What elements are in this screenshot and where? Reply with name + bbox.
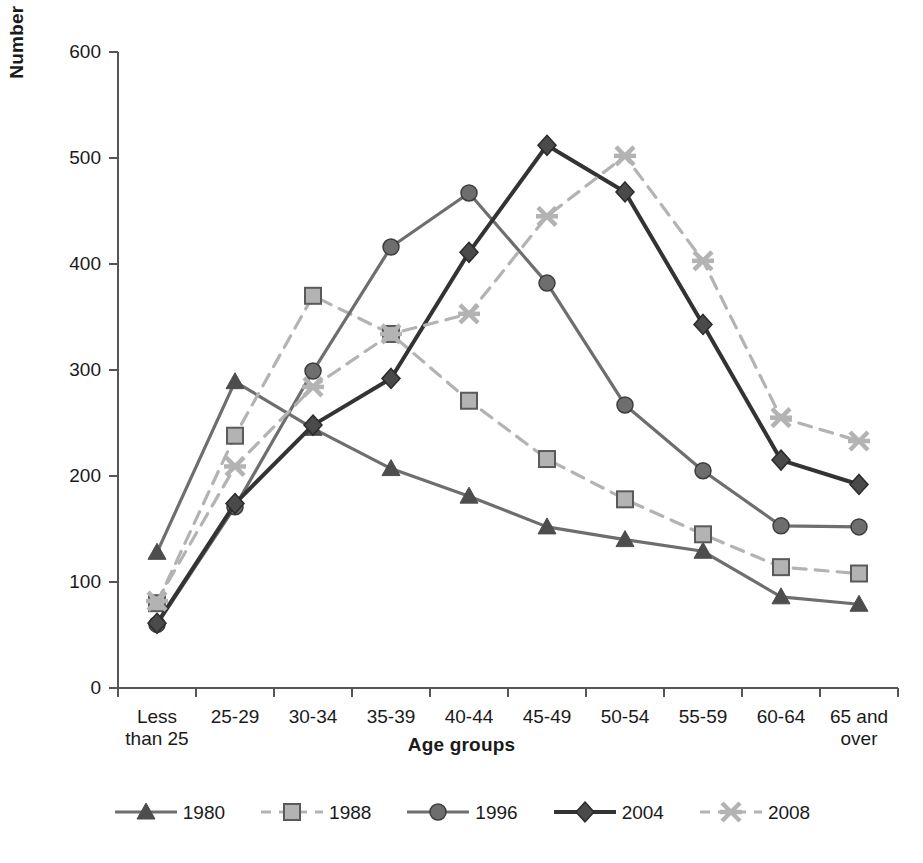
- y-tick-label: 200: [43, 466, 101, 485]
- legend-label: 1980: [183, 803, 225, 822]
- chart-container: Number of RNs (thousands) 60050040030020…: [0, 0, 923, 863]
- y-axis-label: Number of RNs (thousands): [6, 0, 46, 170]
- legend-item-1980[interactable]: 1980: [113, 800, 225, 824]
- legend-swatch-square-icon: [259, 800, 325, 824]
- data-point-x-marker: [302, 378, 324, 396]
- y-tick-label: 500: [43, 148, 101, 167]
- data-point-circle-marker: [430, 804, 446, 820]
- x-axis-label: Age groups: [0, 734, 923, 756]
- legend-label: 2008: [768, 803, 810, 822]
- data-point-x-marker: [614, 147, 636, 165]
- data-point-x-marker: [720, 803, 742, 821]
- data-point-square-marker: [695, 526, 711, 542]
- data-point-x-marker: [458, 305, 480, 323]
- data-point-diamond-marker: [850, 474, 868, 494]
- data-point-x-marker: [224, 457, 246, 475]
- series-2008: [146, 147, 870, 610]
- data-point-square-marker: [851, 566, 867, 582]
- data-point-square-marker: [539, 451, 555, 467]
- series-1996: [149, 185, 867, 632]
- legend-label: 2004: [622, 803, 664, 822]
- y-tick-label: 400: [43, 254, 101, 273]
- y-tick-label: 300: [43, 360, 101, 379]
- data-point-triangle-marker: [148, 543, 166, 559]
- legend-swatch-x-icon: [698, 800, 764, 824]
- y-tick-label: 0: [43, 678, 101, 697]
- data-point-circle-marker: [695, 463, 711, 479]
- series-1980: [148, 373, 868, 612]
- series-layer: [146, 135, 870, 633]
- data-point-diamond-marker: [576, 802, 594, 822]
- data-point-triangle-marker: [382, 460, 400, 476]
- data-point-x-marker: [536, 207, 558, 225]
- data-point-circle-marker: [383, 239, 399, 255]
- y-tick-label: 600: [43, 42, 101, 61]
- legend-swatch-diamond-icon: [552, 800, 618, 824]
- data-point-triangle-marker: [226, 373, 244, 389]
- series-line: [157, 156, 859, 601]
- data-point-circle-marker: [305, 363, 321, 379]
- data-point-x-marker: [770, 409, 792, 427]
- legend-label: 1988: [329, 803, 371, 822]
- series-line: [157, 296, 859, 603]
- data-point-circle-marker: [539, 275, 555, 291]
- data-point-square-marker: [773, 559, 789, 575]
- data-point-square-marker: [284, 804, 300, 820]
- data-point-square-marker: [305, 288, 321, 304]
- series-1988: [149, 288, 867, 611]
- x-tick-label-line1: 65 and: [813, 706, 905, 728]
- y-tick-label: 100: [43, 572, 101, 591]
- legend-item-1996[interactable]: 1996: [405, 800, 517, 824]
- legend-swatch-circle-icon: [405, 800, 471, 824]
- data-point-square-marker: [227, 428, 243, 444]
- legend-item-2004[interactable]: 2004: [552, 800, 664, 824]
- data-point-x-marker: [692, 252, 714, 270]
- legend-swatch-triangle-icon: [113, 800, 179, 824]
- data-point-x-marker: [848, 432, 870, 450]
- chart-legend: 19801988199620042008: [0, 800, 923, 824]
- data-point-circle-marker: [461, 185, 477, 201]
- data-point-circle-marker: [773, 518, 789, 534]
- data-point-circle-marker: [617, 397, 633, 413]
- data-point-square-marker: [461, 393, 477, 409]
- legend-label: 1996: [475, 803, 517, 822]
- data-point-circle-marker: [851, 519, 867, 535]
- legend-item-2008[interactable]: 2008: [698, 800, 810, 824]
- data-point-square-marker: [617, 491, 633, 507]
- legend-item-1988[interactable]: 1988: [259, 800, 371, 824]
